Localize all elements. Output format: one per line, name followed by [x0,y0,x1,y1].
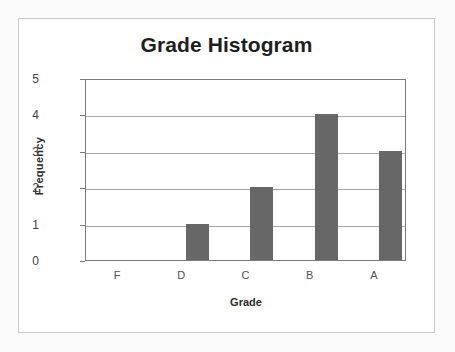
y-tick-label: 2 [17,181,39,195]
y-tick-label: 4 [17,108,39,122]
y-tick-mark [80,152,85,153]
chart-title: Grade Histogram [19,33,434,57]
y-tick-label: 1 [17,218,39,232]
x-tick-label: A [370,269,377,281]
x-axis-title: Grade [85,296,407,308]
y-tick-mark [80,79,85,80]
y-tick-label: 0 [17,254,39,268]
gridline [86,153,405,154]
x-tick-label: C [242,269,250,281]
gridline [86,226,405,227]
plot-area [85,79,406,261]
x-tick-label: D [177,269,185,281]
chart-frame: Grade Histogram Frequency 012345 FDCBA G… [18,18,435,333]
y-tick-mark [80,115,85,116]
y-tick-mark [80,188,85,189]
y-tick-label: 3 [17,145,39,159]
y-axis-title: Frequency [33,111,47,221]
x-tick-label: F [114,269,121,281]
y-tick-mark [80,261,85,262]
y-tick-label: 5 [17,72,39,86]
gridline [86,189,405,190]
y-tick-mark [80,225,85,226]
bar [315,114,338,260]
bar [379,151,402,260]
x-tick-label: B [306,269,313,281]
gridline [86,116,405,117]
bar [250,187,273,260]
bar [186,224,209,260]
